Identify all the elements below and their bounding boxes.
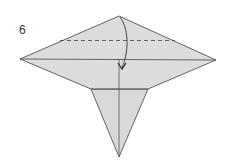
lower-triangle xyxy=(91,89,148,157)
origami-diagram xyxy=(0,0,229,164)
upper-diamond xyxy=(20,16,216,89)
